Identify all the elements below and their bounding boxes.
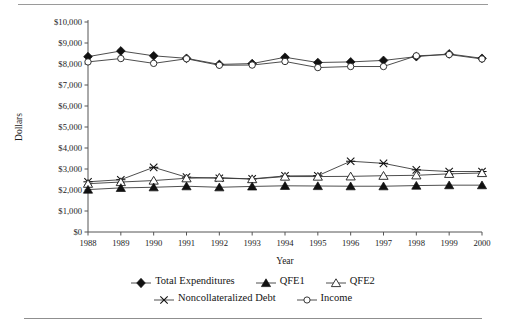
data-point-marker [379,160,388,167]
x-tick-label: 2000 [473,238,490,248]
chart-plot-area: $10,000$9,000$8,000$7,000$6,000$5,000$4,… [0,8,505,270]
figure-rule-bottom [24,318,482,319]
data-point-marker [380,63,386,69]
x-tick-label: 1996 [342,238,360,248]
x-tick-label: 1995 [309,238,326,248]
chart-legend: Total Expenditures QFE1 [0,272,505,312]
data-point-marker [118,55,124,61]
data-point-marker [249,62,255,68]
data-point-marker [149,164,158,171]
x-tick-label: 1994 [276,238,294,248]
data-point-marker [347,63,353,69]
y-tick-label: $3,000 [58,164,82,174]
x-tick-label: 1991 [178,238,195,248]
cross-star-icon [153,292,175,304]
y-tick-label: $5,000 [58,122,82,132]
legend-row-1: Total Expenditures QFE1 [130,272,375,289]
x-tick-label: 1998 [408,238,425,248]
x-tick-label: 1988 [79,238,96,248]
data-point-marker [282,58,288,64]
y-tick-label: $9,000 [58,38,82,48]
filled-diamond-icon [130,275,152,287]
figure-rule-top [18,4,488,5]
y-tick-label: $6,000 [58,101,82,111]
x-tick-label: 1999 [441,238,458,248]
line-chart: $10,000$9,000$8,000$7,000$6,000$5,000$4,… [0,8,505,270]
legend-label: QFE1 [280,275,305,286]
open-circle-icon [296,292,318,304]
legend-item-income[interactable]: Income [296,292,353,304]
x-tick-label: 1997 [375,238,393,248]
y-tick-label: $7,000 [58,80,82,90]
legend-row-2: Noncollateralized Debt Income [153,289,352,306]
data-point-marker [216,62,222,68]
data-point-marker [150,60,156,66]
y-tick-label: $10,000 [54,17,82,27]
legend-item-noncollateralized-debt[interactable]: Noncollateralized Debt [153,292,276,304]
data-point-marker [85,59,91,65]
y-tick-label: $4,000 [58,143,82,153]
y-axis-title: Dollars [14,113,24,141]
x-tick-label: 1989 [112,238,129,248]
legend-item-total-expenditures[interactable]: Total Expenditures [130,275,234,287]
x-tick-label: 1992 [211,238,228,248]
legend-label: QFE2 [350,275,375,286]
y-tick-label: $1,000 [58,206,82,216]
x-tick-label: 1990 [145,238,162,248]
y-tick-label: $0 [73,227,82,237]
legend-label: Total Expenditures [155,275,234,286]
figure-container: $10,000$9,000$8,000$7,000$6,000$5,000$4,… [0,0,505,333]
open-triangle-icon [325,275,347,287]
legend-item-qfe1[interactable]: QFE1 [255,275,305,287]
data-point-marker [116,47,125,56]
data-point-marker [413,53,419,59]
data-point-marker [315,64,321,70]
x-axis-title: Year [276,256,294,266]
legend-item-qfe2[interactable]: QFE2 [325,275,375,287]
y-tick-label: $8,000 [58,59,82,69]
filled-triangle-icon [255,275,277,287]
data-point-marker [479,56,485,62]
legend-label: Noncollateralized Debt [178,292,276,303]
y-tick-label: $2,000 [58,185,82,195]
data-point-marker [149,51,158,60]
legend-label: Income [321,292,353,303]
data-point-marker [446,51,452,57]
data-point-marker [346,158,355,165]
data-point-marker [183,56,189,62]
series-total-expenditures [84,47,487,69]
series-qfe1 [83,181,486,193]
x-tick-label: 1993 [244,238,261,248]
